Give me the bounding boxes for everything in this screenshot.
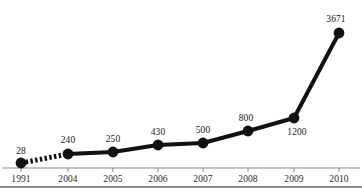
data-point-marker (108, 147, 119, 158)
data-point-marker (198, 138, 209, 149)
data-point-value-label: 500 (196, 126, 211, 136)
data-point-value-label: 240 (61, 136, 76, 146)
data-point-value-label: 28 (16, 147, 26, 157)
data-point-marker (153, 140, 164, 151)
line-segment (21, 154, 68, 163)
x-axis-tick-label: 1991 (11, 175, 30, 185)
data-point-value-label: 3671 (326, 15, 345, 25)
line-segment (294, 33, 339, 118)
x-axis-tick-label: 2009 (284, 175, 303, 185)
x-axis-tick-label: 2007 (193, 175, 212, 185)
data-point-markers (16, 28, 345, 169)
x-axis (2, 168, 360, 172)
data-point-marker (334, 28, 345, 39)
x-axis-tick-label: 2008 (238, 175, 257, 185)
line-chart: 2824025043050080012003671 19912004200520… (0, 0, 362, 195)
x-axis-tick-label: 2004 (58, 175, 77, 185)
data-point-marker (63, 149, 74, 160)
line-segment (68, 152, 113, 154)
data-point-marker (243, 126, 254, 137)
x-axis-tick-label: 2005 (103, 175, 122, 185)
data-point-value-label: 250 (106, 135, 121, 145)
x-axis-tick-label: 2006 (148, 175, 167, 185)
line-segment (113, 145, 158, 152)
chart-canvas (0, 0, 362, 195)
x-axis-tick-label: 2010 (329, 175, 348, 185)
data-point-value-label: 800 (239, 114, 254, 124)
data-point-marker (289, 113, 300, 124)
data-point-value-label: 1200 (287, 128, 306, 138)
line-segment (158, 143, 203, 145)
data-point-marker (16, 158, 27, 169)
data-point-value-label: 430 (151, 128, 166, 138)
bottom-divider (0, 186, 362, 188)
